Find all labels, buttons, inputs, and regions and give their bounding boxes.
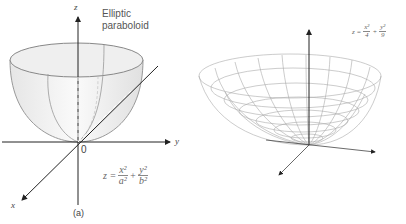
axes-right [266,30,375,175]
x-axis-label: x [11,200,15,210]
eq-frac-y: y²9 [379,24,386,39]
title-line2: paraboloid [102,20,149,32]
figure-title: Elliptic paraboloid [102,8,149,32]
title-line1: Elliptic [102,8,149,20]
equation-left: z = x²a² + y²b² [103,165,148,186]
frac-den: 4 [365,32,369,39]
frac-den: b² [139,176,147,186]
frac-den: 9 [381,32,385,39]
eq-lhs: z = [352,28,361,36]
equation-right: z = x²4 + y²9 [352,24,386,39]
elliptic-paraboloid-wireframe-right [199,54,381,145]
z-axis-label: z [74,2,78,12]
frac-den: a² [119,176,127,186]
origin-label: 0 [81,144,87,155]
eq-plus: + [372,28,377,36]
y-axis-label: y [175,136,179,146]
eq-frac-x: x²4 [363,24,370,39]
eq-frac-y: y²b² [138,165,147,186]
eq-plus: + [130,170,137,181]
figure-caption: (a) [73,208,84,218]
diagram-canvas [0,0,406,224]
eq-lhs: z = [103,170,116,181]
eq-frac-x: x²a² [118,165,127,186]
